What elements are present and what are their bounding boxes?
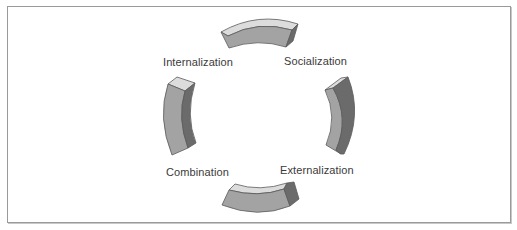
label-combination: Combination [166,166,229,178]
bottom-arc-segment [222,182,299,212]
left-arc-segment [163,77,196,155]
label-externalization: Externalization [280,164,354,176]
top-arc-segment [221,19,298,48]
right-arc-segment [325,77,355,154]
cycle-diagram [0,0,517,230]
label-socialization: Socialization [284,55,347,67]
label-internalization: Internalization [163,56,233,68]
